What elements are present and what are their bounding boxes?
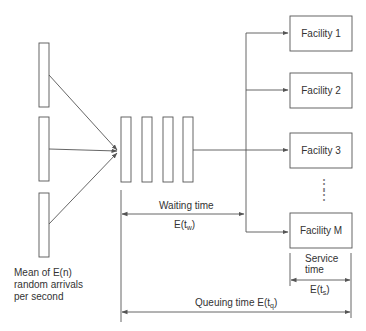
queuing-time-label: Queuing time E(tq) xyxy=(195,297,277,312)
service-time-label-2: time xyxy=(305,264,324,276)
queue-slot-1 xyxy=(121,117,131,182)
arrival-source-3 xyxy=(39,193,49,257)
arrival-source-2 xyxy=(39,117,49,181)
queue-slot-3 xyxy=(163,117,173,182)
arrivals-label-1: Mean of E(n) xyxy=(14,267,72,279)
facility-label: Facility 3 xyxy=(301,145,340,156)
facility-2: Facility 2 xyxy=(290,73,352,108)
facility-3: Facility 3 xyxy=(290,133,352,168)
facility-1: Facility 1 xyxy=(290,16,352,51)
facility-m: Facility M xyxy=(290,213,352,248)
waiting-time-expression: E(tw) xyxy=(174,219,195,234)
facility-label: Facility 2 xyxy=(301,85,340,96)
arrivals-label-2: random arrivals xyxy=(14,279,83,291)
queue-slot-2 xyxy=(142,117,152,182)
queue-slot-4 xyxy=(183,117,193,182)
waiting-time-label: Waiting time xyxy=(159,200,214,212)
facility-label: Facility M xyxy=(300,225,342,236)
facility-label: Facility 1 xyxy=(301,28,340,39)
arrival-source-1 xyxy=(39,43,49,107)
service-time-expression: E(ts) xyxy=(310,284,330,299)
arrivals-label-3: per second xyxy=(14,291,63,303)
facility-ellipsis-2: ⋮ xyxy=(317,189,331,201)
